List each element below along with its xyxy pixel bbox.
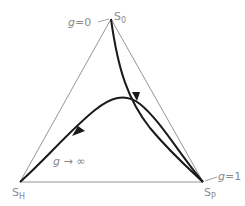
- label-g-equals-0: g=0: [68, 16, 91, 29]
- edge-top-right: [111, 19, 203, 182]
- vertex-label-sp: SP: [204, 186, 216, 201]
- simplex-diagram: S0 SH SP g=0 g=1 g → ∞: [0, 0, 245, 206]
- arrow-left-down-icon: [72, 126, 85, 136]
- vertex-label-sh: SH: [12, 186, 25, 201]
- leader-g0: [98, 19, 109, 22]
- label-g-to-infinity: g → ∞: [53, 155, 85, 168]
- trajectory-g-infinity: [20, 97, 203, 182]
- vertex-label-s0: S0: [114, 10, 126, 25]
- label-g-equals-1: g=1: [218, 170, 241, 183]
- leader-g1: [205, 177, 217, 181]
